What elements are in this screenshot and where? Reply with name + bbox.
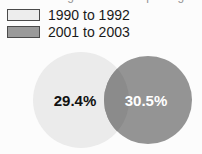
venn-label-left-percentage: 29.4%	[54, 92, 97, 109]
legend-label-2001-to-2003: 2001 to 2003	[48, 25, 130, 39]
venn-diagram: 29.4% 30.5%	[0, 44, 202, 154]
venn-figure: Percentage of adults reporting 1990 to 1…	[0, 0, 202, 154]
venn-diagram-svg: 29.4% 30.5%	[0, 44, 202, 154]
venn-label-right-percentage: 30.5%	[125, 92, 168, 109]
legend-swatch-dark-icon	[7, 26, 40, 38]
legend-item-1990-to-1992[interactable]: 1990 to 1992	[7, 7, 197, 23]
legend-swatch-light-icon	[7, 9, 40, 21]
legend: 1990 to 1992 2001 to 2003	[7, 7, 197, 41]
legend-label-1990-to-1992: 1990 to 1992	[48, 8, 130, 22]
legend-item-2001-to-2003[interactable]: 2001 to 2003	[7, 24, 197, 40]
cut-off-title-text: Percentage of adults reporting	[0, 0, 202, 3]
